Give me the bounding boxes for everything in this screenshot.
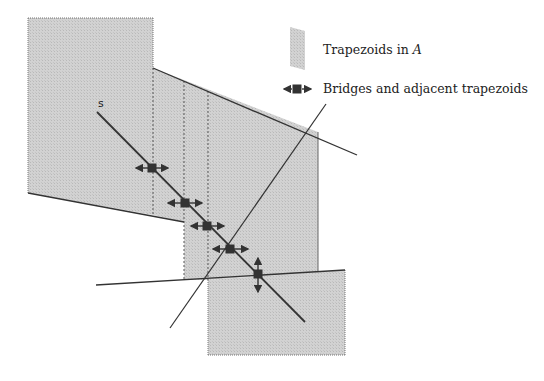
trapezoid-left [28,18,153,215]
legend-trapezoid-icon [290,27,305,70]
trapezoid-middle [153,68,318,280]
trapezoid-bottom [208,270,345,355]
label-s: s [98,97,104,110]
legend-bridges: Bridges and adjacent trapezoids [323,81,528,96]
trapezoid-diagram [0,0,544,381]
legend-trapezoids-var: A [413,42,422,57]
legend-bridge-icon [284,85,311,93]
legend-trapezoids-text: Trapezoids in [323,42,413,57]
legend-trapezoids: Trapezoids in A [323,42,422,57]
